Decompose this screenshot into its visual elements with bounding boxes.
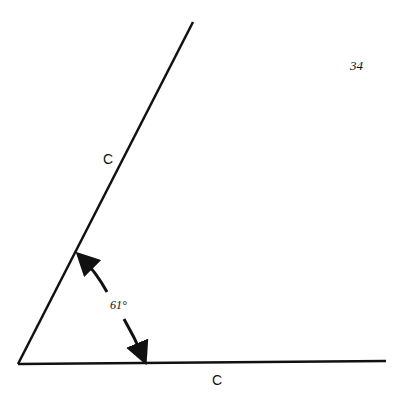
slanted-side-label: C	[103, 151, 113, 167]
angle-diagram	[0, 0, 404, 401]
base-side-line	[18, 361, 386, 364]
angle-arrow-lower	[124, 319, 143, 357]
angle-arrow-upper	[82, 258, 107, 292]
page-number: 34	[350, 58, 363, 74]
angle-label: 61°	[110, 298, 127, 313]
slanted-side-line	[18, 22, 193, 364]
base-side-label: C	[212, 372, 222, 388]
